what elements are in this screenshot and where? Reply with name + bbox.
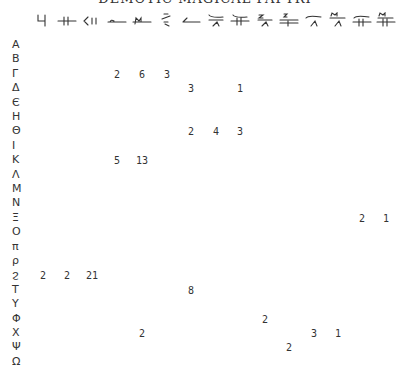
row-label: Φ <box>12 313 26 325</box>
col-8-sign-icon <box>204 12 228 30</box>
row-label: X <box>12 327 26 339</box>
row-label: I <box>12 140 26 152</box>
row-label: Δ <box>12 82 26 94</box>
table-cell: 2 <box>57 270 77 282</box>
table-cell: 2 <box>33 270 53 282</box>
row-label: Ξ <box>12 212 26 224</box>
table-cell: 13 <box>132 155 152 167</box>
col-5-sign-icon <box>130 12 154 30</box>
row-label: M <box>12 183 26 195</box>
table-cell: 8 <box>181 285 201 297</box>
table-cell: 3 <box>304 328 324 340</box>
col-15-sign-icon <box>374 12 398 30</box>
table-cell: 2 <box>107 69 127 81</box>
row-label: Є <box>12 97 26 109</box>
table-cell: 21 <box>82 270 102 282</box>
row-label: K <box>12 154 26 166</box>
col-12-sign-icon <box>302 12 326 30</box>
table-cell: 1 <box>376 213 396 225</box>
col-10-sign-icon <box>253 12 277 30</box>
row-label: ϩ <box>12 269 26 281</box>
page-title: DEMOTIC MAGICAL PAPYRI <box>0 0 410 6</box>
row-label: ρ <box>12 255 26 267</box>
col-3-sign-icon <box>80 12 104 30</box>
row-label: Θ <box>12 125 26 137</box>
table-cell: 2 <box>352 213 372 225</box>
col-7-sign-icon <box>179 12 203 30</box>
table-cell: 3 <box>230 126 250 138</box>
row-label: Y <box>12 298 26 310</box>
col-6-sign-icon <box>155 12 179 30</box>
row-label: Λ <box>12 169 26 181</box>
table-cell: 1 <box>328 328 348 340</box>
table-cell: 4 <box>206 126 226 138</box>
row-label: N <box>12 197 26 209</box>
row-label: T <box>12 284 26 296</box>
table-cell: 5 <box>107 155 127 167</box>
row-label: Ψ <box>12 341 26 353</box>
table-cell: 3 <box>157 69 177 81</box>
table-cell: 3 <box>181 83 201 95</box>
table-cell: 2 <box>132 328 152 340</box>
table-cell: 2 <box>181 126 201 138</box>
row-label: H <box>12 111 26 123</box>
row-label: Ω <box>12 356 26 368</box>
table-cell: 2 <box>255 314 275 326</box>
table-cell: 2 <box>279 342 299 354</box>
row-label: O <box>12 226 26 238</box>
table-cell: 6 <box>132 69 152 81</box>
row-label: B <box>12 53 26 65</box>
col-1-sign-icon <box>31 12 55 30</box>
table-cell: 1 <box>230 83 250 95</box>
col-13-sign-icon <box>326 12 350 30</box>
col-4-sign-icon <box>105 12 129 30</box>
row-label: Γ <box>12 68 26 80</box>
col-14-sign-icon <box>350 12 374 30</box>
col-2-sign-icon <box>55 12 79 30</box>
col-11-sign-icon <box>277 12 301 30</box>
col-9-sign-icon <box>228 12 252 30</box>
row-label: A <box>12 39 26 51</box>
row-label: π <box>12 241 26 253</box>
